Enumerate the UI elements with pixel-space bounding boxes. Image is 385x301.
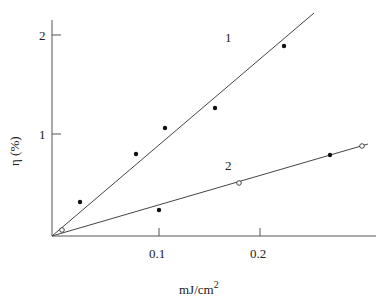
fit-line-2: [52, 144, 368, 236]
series-2-open-points: [60, 144, 365, 233]
data-point: [328, 153, 332, 157]
series-1-points: [78, 44, 286, 204]
series-label-2: 2: [225, 158, 232, 173]
series-label-1: 1: [225, 30, 232, 45]
data-point: [282, 44, 286, 48]
x-tick-label-0.1: 0.1: [149, 246, 165, 261]
data-point: [213, 106, 217, 110]
x-axis-label: mJ/cm2: [179, 279, 219, 297]
y-axis-label: η (%): [7, 136, 22, 166]
data-point: [134, 152, 138, 156]
y-tick-label-1: 1: [39, 127, 46, 142]
x-ticks: 0.1 0.2: [149, 228, 266, 261]
y-tick-label-2: 2: [39, 28, 46, 43]
data-point: [60, 228, 65, 233]
data-point: [237, 181, 242, 186]
fit-line-1: [52, 13, 314, 236]
chart: 2 1 0.1 0.2 η (%) mJ/cm2 1 2: [0, 0, 385, 301]
data-point: [78, 200, 82, 204]
x-tick-label-0.2: 0.2: [250, 246, 266, 261]
data-point: [163, 126, 167, 130]
y-ticks: 2 1: [39, 28, 61, 142]
data-point: [360, 144, 365, 149]
data-point: [157, 208, 161, 212]
